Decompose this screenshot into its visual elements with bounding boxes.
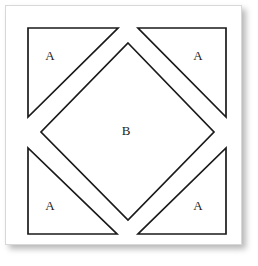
diamond-center-label: B <box>122 123 131 138</box>
triangle-bottom-right-label: A <box>193 198 203 213</box>
quilt-block-diagram: A A A A B <box>0 0 258 266</box>
triangle-top-left-label: A <box>45 48 55 63</box>
triangle-top-right-label: A <box>193 48 203 63</box>
figure-root: A A A A B <box>0 0 258 266</box>
triangle-bottom-left-label: A <box>45 198 55 213</box>
